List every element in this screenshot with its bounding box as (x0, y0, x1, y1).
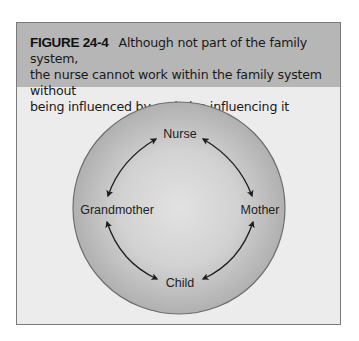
family-system-diagram: Nurse Mother Child Grandmother (0, 0, 359, 341)
node-nurse: Nurse (163, 127, 196, 141)
node-grandmother: Grandmother (80, 203, 154, 217)
node-mother: Mother (241, 203, 280, 217)
node-child: Child (166, 276, 195, 290)
